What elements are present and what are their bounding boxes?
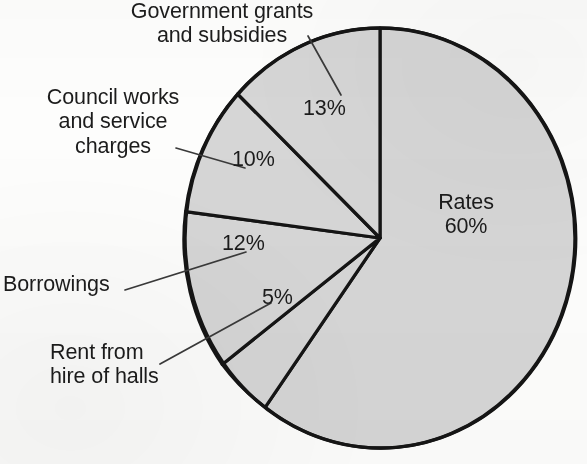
label-rent-from-hire-of-halls: Rent from hire of halls bbox=[50, 340, 220, 389]
value-label-rent-from-hire-of-halls: 5% bbox=[262, 285, 293, 309]
value-label-borrowings: 12% bbox=[222, 231, 265, 255]
value-label-council-works-and-service-charges: 10% bbox=[232, 147, 275, 171]
label-government-grants-and-subsidies: Government grants and subsidies bbox=[112, 0, 332, 48]
label-council-works-and-service-charges: Council works and service charges bbox=[18, 85, 208, 158]
value-label-government-grants-and-subsidies: 13% bbox=[303, 96, 346, 120]
label-rates: Rates 60% bbox=[400, 190, 532, 239]
pie-chart-figure: Government grants and subsidies Council … bbox=[0, 0, 587, 464]
label-borrowings: Borrowings bbox=[3, 272, 153, 296]
